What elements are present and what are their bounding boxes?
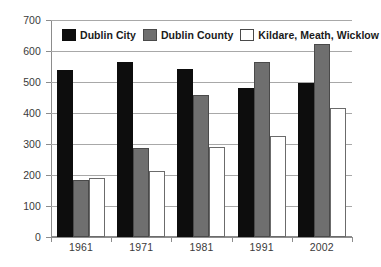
bar-2002-series-3 bbox=[330, 108, 346, 237]
bar-1971-series-2 bbox=[133, 148, 149, 237]
bar-2002-series-1 bbox=[298, 83, 314, 237]
legend-label: Dublin County bbox=[161, 29, 233, 41]
x-tick-label-1981: 1981 bbox=[174, 241, 228, 259]
bar-2002-series-2 bbox=[314, 44, 330, 237]
legend-label: Dublin City bbox=[80, 29, 136, 41]
bar-1961-series-1 bbox=[57, 70, 73, 237]
gridline-0 bbox=[51, 237, 352, 238]
y-tick-label: 400 bbox=[7, 107, 41, 119]
x-tick-label-2002: 2002 bbox=[295, 241, 349, 259]
bar-group-1971 bbox=[114, 20, 168, 237]
y-tick-label: 0 bbox=[7, 231, 41, 243]
legend-entry-1: Dublin City bbox=[62, 29, 136, 41]
bar-1971-series-1 bbox=[117, 62, 133, 237]
y-tick-label: 100 bbox=[7, 200, 41, 212]
bar-1971-series-3 bbox=[149, 171, 165, 237]
bar-1981-series-1 bbox=[177, 69, 193, 237]
x-tick-label-1971: 1971 bbox=[114, 241, 168, 259]
legend-label: Kildare, Meath, Wicklow bbox=[258, 29, 379, 41]
x-tick-labels: 19611971198119912002 bbox=[51, 241, 352, 259]
bar-group-2002 bbox=[295, 20, 349, 237]
x-tick-label-1991: 1991 bbox=[235, 241, 289, 259]
bar-1961-series-3 bbox=[89, 178, 105, 237]
x-tick-label-1961: 1961 bbox=[54, 241, 108, 259]
y-tick-label: 700 bbox=[7, 14, 41, 26]
legend-entry-2: Dublin County bbox=[143, 29, 233, 41]
legend-swatch-icon-3 bbox=[240, 29, 254, 41]
bar-groups bbox=[51, 20, 352, 237]
legend-swatch-icon-2 bbox=[143, 29, 157, 41]
bar-1991-series-1 bbox=[238, 88, 254, 237]
bar-1991-series-2 bbox=[254, 62, 270, 237]
bar-group-1991 bbox=[235, 20, 289, 237]
legend-swatch-icon-1 bbox=[62, 29, 76, 41]
y-tick-label: 600 bbox=[7, 45, 41, 57]
bar-1961-series-2 bbox=[73, 180, 89, 237]
x-tick-mark-5 bbox=[352, 237, 353, 242]
y-tick-label: 200 bbox=[7, 169, 41, 181]
bar-group-1961 bbox=[54, 20, 108, 237]
chart-legend: Dublin CityDublin CountyKildare, Meath, … bbox=[60, 28, 381, 42]
bar-1981-series-3 bbox=[209, 147, 225, 237]
y-tick-label: 300 bbox=[7, 138, 41, 150]
bar-group-1981 bbox=[174, 20, 228, 237]
bar-1981-series-2 bbox=[193, 95, 209, 237]
legend-entry-3: Kildare, Meath, Wicklow bbox=[240, 29, 379, 41]
y-tick-label: 500 bbox=[7, 76, 41, 88]
bar-1991-series-3 bbox=[270, 136, 286, 237]
